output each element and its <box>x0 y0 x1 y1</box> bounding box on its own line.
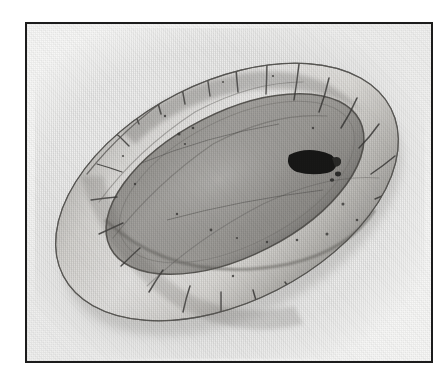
photo-plate-frame <box>25 22 433 363</box>
photographed-object <box>27 24 431 361</box>
photo-page: Oval object with a thick quilted/padded … <box>0 0 448 382</box>
oval-padded-tray-illustration <box>27 24 431 361</box>
